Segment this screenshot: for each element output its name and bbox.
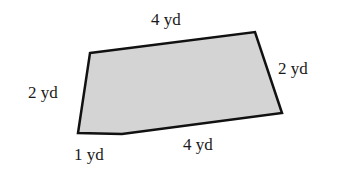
label-top-side: 4 yd: [151, 11, 181, 28]
label-bottom-side: 4 yd: [183, 136, 213, 153]
shaded-pentagon: [78, 32, 282, 134]
label-bottom-left-side: 1 yd: [74, 146, 104, 163]
label-right-side: 2 yd: [278, 60, 308, 77]
label-left-side: 2 yd: [28, 84, 58, 101]
